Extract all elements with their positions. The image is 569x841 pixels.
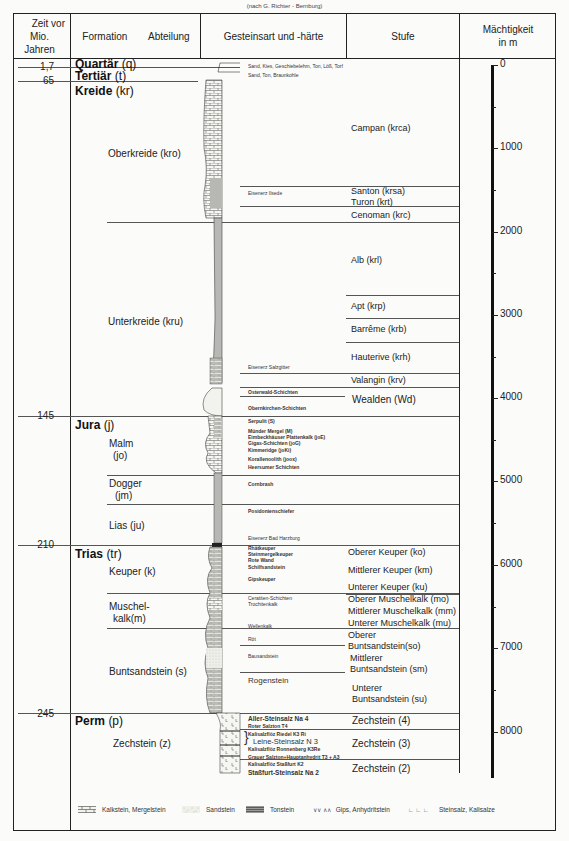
stufe-campan: Campan (krca)	[351, 123, 411, 134]
line-dogger-lias	[107, 504, 459, 505]
abteilung-zechstein: Zechstein (z)	[113, 738, 171, 750]
stufe-oberer-buntsandstein-line2: Buntsandstein(so)	[348, 641, 421, 652]
abteilung-buntsandstein: Buntsandstein (s)	[109, 666, 187, 678]
rock-label-kalisalzfloz-stassfurt: Kalisalzflöz Staßfurt K2	[248, 761, 304, 767]
stufe-unterer-muschelkalk: Unterer Muschelkalk (mu)	[348, 618, 451, 629]
legend-salt-label: Steinsalz, Kalisalze	[439, 806, 495, 813]
formation-tertiar: Tertiär (t)	[75, 69, 126, 83]
depth-label-3000: 3000	[500, 308, 522, 319]
rock-label-rogenstein: Rogenstein	[248, 676, 288, 685]
gypsum-pattern-icon: ∨∨ ∧∧	[313, 806, 331, 813]
line-campan-santon	[240, 186, 459, 187]
rock-label-heersumer: Heersumer Schichten	[248, 464, 299, 470]
header-stufe: Stufe	[347, 14, 459, 58]
header-time-line2: Mio. Jahren	[14, 30, 65, 56]
stufe-unterer-keuper: Unterer Keuper (ku)	[348, 582, 428, 593]
rock-label-roter-salzton: Roter Salzton T4	[248, 723, 287, 729]
salt-pattern-icon: ∟ ∟ ∟	[408, 807, 429, 813]
age-label-245: 245	[30, 708, 54, 719]
abteilung-malm-line2: (jo)	[109, 450, 133, 462]
line-z4-z3	[240, 729, 459, 730]
legend-claystone-label: Tonstein	[270, 806, 294, 813]
brace-icon: }	[244, 730, 249, 744]
stufe-oberer-muschelkalk: Oberer Muschelkalk (mo)	[348, 594, 449, 605]
abteilung-malm: Malm (jo)	[109, 438, 133, 462]
sandstone-pattern-icon	[182, 806, 200, 813]
rock-label-eisenerz-ilsede: Eisenerz Ilsede	[248, 190, 282, 196]
rock-label-gipskeuper: Gipskeuper	[248, 576, 276, 582]
rock-label-korallenoolith: Korallenoolith (joox)	[248, 456, 297, 462]
col-divider-stufe	[459, 13, 460, 773]
header-abteilung-label: Abteilung	[148, 30, 190, 43]
header-gestein: Gesteinsart und -härte	[201, 14, 346, 58]
stufe-alb: Alb (krl)	[351, 255, 382, 266]
stufe-zechstein-2: Zechstein (2)	[352, 763, 410, 774]
stufe-turon: Turon (krt)	[351, 197, 405, 208]
depth-minor-tick	[492, 357, 496, 358]
legend-claystone: Tonstein	[246, 806, 294, 813]
rock-label-aller-steinsalz: Aller-Steinsalz Na 4	[248, 714, 308, 723]
depth-label-0: 0	[500, 58, 506, 69]
abteilung-lias: Lias (ju)	[109, 520, 145, 532]
col-divider-age	[70, 13, 71, 831]
depth-tick-6000	[492, 565, 498, 566]
age-label-210: 210	[30, 539, 54, 550]
formation-kreide: Kreide (kr)	[75, 84, 134, 98]
abteilung-muschelkalk: Muschel- kalk(m)	[109, 601, 150, 625]
line-malm-dogger	[107, 475, 459, 476]
depth-tick-0	[492, 65, 498, 66]
rock-label-serpulit: Serpulit (S)	[248, 418, 275, 424]
formation-jura: Jura (j)	[75, 418, 114, 432]
depth-minor-tick	[492, 190, 496, 191]
stufe-oberer-keuper: Oberer Keuper (ko)	[348, 547, 426, 558]
rock-label-trochitenkalk: Trochitenkalk	[248, 601, 278, 607]
formation-perm-name: Perm	[75, 714, 105, 728]
rock-label-posidonienschiefer: Posidonienschiefer	[248, 508, 294, 514]
header-formation: Formation Abteilung	[72, 14, 200, 58]
line-valangin-wealden	[240, 387, 459, 388]
stufe-mittlerer-buntsandstein-line1: Mittlerer	[350, 653, 428, 664]
abteilung-muschelkalk-line1: Muschel-	[109, 601, 150, 613]
header-formation-label: Formation	[82, 30, 127, 43]
rock-label-cornbrash: Cornbrash	[248, 481, 273, 487]
line-apt-barreme	[346, 318, 459, 319]
header-machtigkeit-line1: Mächtigkeit	[483, 23, 534, 36]
formation-tertiar-code: (t)	[115, 69, 126, 83]
rock-label-rot: Röt	[248, 636, 256, 642]
rock-label-leine-steinsalz: Leine-Steinsalz N 3	[253, 737, 318, 746]
rock-label-wellenkalk: Wellenkalk	[248, 623, 272, 629]
depth-label-6000: 6000	[500, 558, 522, 569]
line-turon-cenoman	[240, 206, 459, 207]
header-time: Zeit vor Mio. Jahren	[14, 14, 69, 58]
depth-minor-tick	[492, 690, 496, 691]
stufe-unterer-buntsandstein: UntererBuntsandstein (su)	[352, 683, 427, 705]
stufe-apt: Apt (krp)	[351, 301, 386, 312]
stufe-hauterive: Hauterive (krh)	[351, 352, 411, 363]
source-credit: (nach G. Richter - Bernburg)	[0, 3, 569, 9]
formation-trias-name: Trias	[75, 547, 103, 561]
rock-label-kalisalzfloz-ronnenberg: Kalisalzflöz Ronnenberg K3Re	[248, 746, 320, 752]
stufe-mittlerer-buntsandstein-line2: Buntsandstein (sm)	[350, 664, 428, 675]
line-barreme-hauterive	[346, 342, 459, 343]
depth-tick-2000	[492, 232, 498, 233]
rock-label-grauer-salzton: Grauer Salzton+Hauptanhydrit T3 + A3	[248, 754, 340, 760]
header-time-line1: Zeit vor	[32, 17, 65, 30]
abteilung-unterkreide: Unterkreide (kru)	[108, 316, 183, 328]
limestone-pattern-icon	[78, 806, 96, 813]
stufe-santon-turon: Santon (krsa)Turon (krt)	[351, 186, 405, 208]
depth-label-7000: 7000	[500, 641, 522, 652]
formation-perm-code: (p)	[108, 714, 123, 728]
age-label-145: 145	[30, 410, 54, 421]
stufe-oberer-buntsandstein: ObererBuntsandstein(so)	[348, 630, 421, 652]
line-alb-apt	[346, 295, 459, 296]
rock-label-osterwald: Osterwald-Schichten	[248, 389, 298, 395]
depth-label-8000: 8000	[500, 725, 522, 736]
legend-gypsum-label: Gips, Anhydritstein	[336, 806, 390, 813]
stufe-mittlerer-keuper: Mittlerer Keuper (km)	[348, 565, 433, 576]
abteilung-oberkreide: Oberkreide (kro)	[108, 148, 181, 160]
stufe-cenoman: Cenoman (krc)	[351, 210, 411, 221]
stufe-barreme: Barrême (krb)	[351, 324, 407, 335]
stufe-mittlerer-buntsandstein: MittlererBuntsandstein (sm)	[350, 653, 428, 675]
depth-tick-8000	[492, 732, 498, 733]
legend-gypsum: ∨∨ ∧∧ Gips, Anhydritstein	[313, 806, 390, 813]
